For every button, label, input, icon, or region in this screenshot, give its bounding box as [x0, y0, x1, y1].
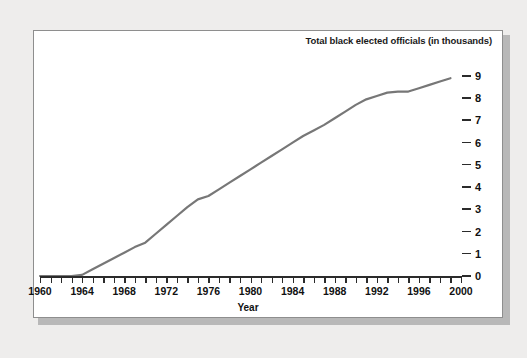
y-axis-tick-mark [462, 164, 471, 166]
x-axis-tick-mark [440, 277, 441, 283]
x-axis-tick-mark [229, 277, 230, 283]
x-axis-tick-mark [261, 277, 262, 283]
y-axis-tick-label: 3 [475, 201, 481, 217]
x-axis-tick-mark [145, 277, 146, 283]
x-axis-tick-label: 1996 [407, 285, 430, 297]
chart-panel: Total black elected officials (in thousa… [33, 30, 503, 318]
x-axis-tick-mark [166, 277, 167, 283]
y-axis-tick-label: 9 [475, 68, 481, 84]
x-axis-tick-mark [61, 277, 62, 283]
x-axis-tick-mark [40, 277, 41, 283]
x-axis-tick-mark [135, 277, 136, 283]
x-axis-tick-mark [240, 277, 241, 283]
x-axis-tick-mark [335, 277, 336, 283]
x-axis-tick-mark [429, 277, 430, 283]
y-axis-tick-mark [462, 119, 471, 121]
x-axis-tick-label: 1976 [197, 285, 220, 297]
x-axis-tick-mark [187, 277, 188, 283]
y-axis-tick-mark [462, 97, 471, 99]
x-axis-tick-mark [293, 277, 294, 283]
x-axis-tick-mark [356, 277, 357, 283]
x-axis-tick-mark [82, 277, 83, 283]
x-axis-tick-mark [419, 277, 420, 283]
y-axis-tick-label: 2 [475, 224, 481, 240]
x-axis-tick-mark [366, 277, 367, 283]
x-axis-tick-mark [461, 277, 462, 283]
x-axis-tick-label: 1968 [113, 285, 136, 297]
x-axis-tick-mark [282, 277, 283, 283]
x-axis-title: Year [34, 302, 462, 313]
y-axis-tick-label: 8 [475, 90, 481, 106]
x-axis-tick-mark [156, 277, 157, 283]
x-axis-tick-label: 1960 [28, 285, 51, 297]
x-axis-tick-mark [177, 277, 178, 283]
x-axis-tick-mark [251, 277, 252, 283]
y-axis-tick-label: 0 [475, 268, 481, 284]
x-axis-tick-mark [387, 277, 388, 283]
x-axis-tick-label: 1984 [281, 285, 304, 297]
x-axis-tick-mark [72, 277, 73, 283]
x-axis-tick-mark [303, 277, 304, 283]
x-axis-tick-mark [124, 277, 125, 283]
x-axis-tick-mark [314, 277, 315, 283]
x-axis-tick-mark [219, 277, 220, 283]
x-axis-tick-label: 1988 [323, 285, 346, 297]
x-axis-tick-label: 1992 [365, 285, 388, 297]
x-axis-tick-mark [345, 277, 346, 283]
x-axis-tick-mark [450, 277, 451, 283]
y-axis-tick-label: 6 [475, 135, 481, 151]
plot-area: Total black elected officials (in thousa… [34, 31, 504, 319]
x-axis-tick-mark [208, 277, 209, 283]
x-axis-tick-mark [103, 277, 104, 283]
x-axis-tick-mark [198, 277, 199, 283]
y-axis-tick-mark [462, 75, 471, 77]
x-axis-tick-label: 2000 [449, 285, 472, 297]
y-axis-tick-mark [462, 253, 471, 255]
y-axis-tick-mark [462, 186, 471, 188]
y-axis-tick-label: 5 [475, 157, 481, 173]
x-axis-tick-mark [408, 277, 409, 283]
x-axis-tick-label: 1964 [70, 285, 93, 297]
y-axis-tick-label: 7 [475, 112, 481, 128]
y-axis-tick-mark [462, 208, 471, 210]
x-axis-tick-mark [398, 277, 399, 283]
x-axis-tick-mark [272, 277, 273, 283]
y-axis-tick-mark [462, 142, 471, 144]
x-axis-tick-mark [377, 277, 378, 283]
y-axis-tick-mark [462, 231, 471, 233]
x-axis-tick-mark [51, 277, 52, 283]
line-series-path [40, 78, 450, 276]
y-axis: 0123456789 [462, 31, 504, 319]
figure-root: Total black elected officials (in thousa… [0, 0, 527, 358]
y-axis-tick-mark [462, 275, 471, 277]
y-axis-tick-label: 1 [475, 246, 481, 262]
x-axis-tick-mark [324, 277, 325, 283]
x-axis-tick-label: 1972 [155, 285, 178, 297]
x-axis-tick-mark [114, 277, 115, 283]
x-axis-tick-mark [93, 277, 94, 283]
y-axis-tick-label: 4 [475, 179, 481, 195]
x-axis-tick-label: 1980 [239, 285, 262, 297]
